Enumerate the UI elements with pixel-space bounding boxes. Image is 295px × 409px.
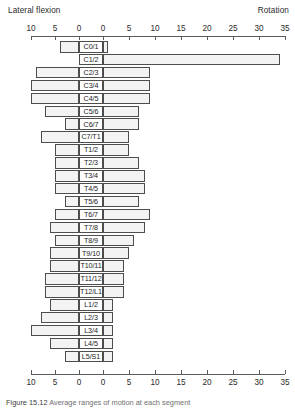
axis-tick-label: 30 xyxy=(246,24,272,33)
bar-row: L3/4 xyxy=(0,325,295,337)
axis-tick xyxy=(285,370,286,374)
segment-label-box: C0/1 xyxy=(79,41,103,53)
chart-plot-area: 105005101520253035 C0/1C1/2C2/3C3/4C4/5C… xyxy=(0,0,295,409)
bar-row: L4/5 xyxy=(0,338,295,350)
rotation-bar xyxy=(103,196,139,208)
rotation-bar xyxy=(103,93,150,105)
rotation-bar xyxy=(103,351,113,363)
axis-tick-label: 0 xyxy=(66,24,92,33)
rotation-bar xyxy=(103,144,129,156)
segment-label: T12/L1 xyxy=(80,288,102,295)
axis-tick xyxy=(129,36,130,40)
figure-caption: Figure 15.12 Average ranges of motion at… xyxy=(6,398,291,407)
segment-label-box: T7/8 xyxy=(79,222,103,234)
segment-label-box: C2/3 xyxy=(79,67,103,79)
rotation-bar xyxy=(103,106,139,118)
segment-label: C5/6 xyxy=(84,108,99,115)
segment-label-box: T8/9 xyxy=(79,235,103,247)
bar-row: C2/3 xyxy=(0,67,295,79)
rotation-bar xyxy=(103,235,134,247)
segment-label: C1/2 xyxy=(84,56,99,63)
lateral-flexion-bar xyxy=(45,106,79,118)
lateral-flexion-bar xyxy=(55,235,79,247)
segment-label: T4/5 xyxy=(84,185,98,192)
axis-tick xyxy=(31,36,32,40)
rotation-bar xyxy=(103,67,150,79)
rotation-bar xyxy=(103,54,280,66)
axis-tick-label: 25 xyxy=(220,24,246,33)
lateral-flexion-bar xyxy=(31,93,79,105)
bar-row: T11/12 xyxy=(0,273,295,285)
lateral-flexion-bar xyxy=(55,183,79,195)
axis-tick xyxy=(259,370,260,374)
figure-container: Lateral flexion Rotation 105005101520253… xyxy=(0,0,295,409)
axis-tick xyxy=(103,36,104,40)
axis-tick-label: 10 xyxy=(18,378,44,387)
segment-label-box: T2/3 xyxy=(79,157,103,169)
bar-row: T12/L1 xyxy=(0,286,295,298)
segment-label: L5/S1 xyxy=(82,353,100,360)
segment-label-box: L4/5 xyxy=(79,338,103,350)
segment-label-box: T12/L1 xyxy=(79,286,103,298)
segment-label: T2/3 xyxy=(84,159,98,166)
lateral-flexion-bar xyxy=(36,67,79,79)
rotation-bar xyxy=(103,131,129,143)
axis-tick-label: 5 xyxy=(116,378,142,387)
axis-tick xyxy=(207,370,208,374)
bar-row: T5/6 xyxy=(0,196,295,208)
bar-row: L1/2 xyxy=(0,299,295,311)
segment-label: T10/11 xyxy=(80,262,101,269)
bar-row: C4/5 xyxy=(0,93,295,105)
axis-tick xyxy=(79,36,80,40)
lateral-flexion-bar xyxy=(55,209,79,221)
segment-label-box: T1/2 xyxy=(79,144,103,156)
segment-label-box: L2/3 xyxy=(79,312,103,324)
bar-row: T4/5 xyxy=(0,183,295,195)
figure-number: Figure 15.12 xyxy=(6,398,48,407)
segment-label-box: T11/12 xyxy=(79,273,103,285)
rotation-bar xyxy=(103,157,139,169)
lateral-flexion-bar xyxy=(45,286,79,298)
bar-row: L5/S1 xyxy=(0,351,295,363)
lateral-flexion-bar xyxy=(50,299,79,311)
axis-tick xyxy=(207,36,208,40)
rotation-bar xyxy=(103,260,124,272)
rotation-bar xyxy=(103,170,145,182)
bar-row: T3/4 xyxy=(0,170,295,182)
rotation-bar xyxy=(103,41,108,53)
bar-row: C5/6 xyxy=(0,106,295,118)
axis-tick-label: 15 xyxy=(168,24,194,33)
lateral-flexion-bar xyxy=(55,144,79,156)
rotation-bar xyxy=(103,247,129,259)
axis-tick-label: 15 xyxy=(168,378,194,387)
axis-tick xyxy=(55,370,56,374)
figure-caption-text: Average ranges of motion at each segment xyxy=(49,398,190,407)
axis-tick-label: 35 xyxy=(272,24,295,33)
axis-tick-label: 0 xyxy=(90,24,116,33)
bottom-axis-line xyxy=(31,374,285,375)
bottom-axis: 105005101520253035 xyxy=(0,374,295,388)
segment-label-box: L5/S1 xyxy=(79,351,103,363)
segment-label-box: T9/10 xyxy=(79,247,103,259)
axis-tick xyxy=(55,36,56,40)
lateral-flexion-bar xyxy=(50,338,79,350)
segment-label: L1/2 xyxy=(84,301,98,308)
bar-row: T8/9 xyxy=(0,235,295,247)
bar-row: T7/8 xyxy=(0,222,295,234)
axis-tick xyxy=(181,370,182,374)
bar-row: L2/3 xyxy=(0,312,295,324)
axis-tick xyxy=(129,370,130,374)
segment-label: T9/10 xyxy=(82,250,100,257)
axis-tick xyxy=(155,36,156,40)
lateral-flexion-bar xyxy=(65,351,79,363)
axis-tick-label: 5 xyxy=(116,24,142,33)
bar-row: C0/1 xyxy=(0,41,295,53)
segment-label-box: C5/6 xyxy=(79,106,103,118)
axis-tick xyxy=(103,370,104,374)
rotation-bar xyxy=(103,222,145,234)
axis-tick-label: 10 xyxy=(18,24,44,33)
rotation-bar xyxy=(103,80,150,92)
segment-label: T1/2 xyxy=(84,146,98,153)
segment-label-box: C3/4 xyxy=(79,80,103,92)
lateral-flexion-bar xyxy=(65,118,79,130)
